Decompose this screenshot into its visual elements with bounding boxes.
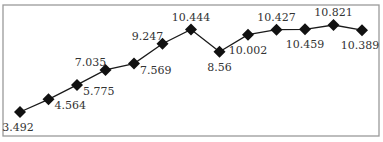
data-label: 7.035: [75, 56, 107, 69]
data-label: 10.821: [314, 6, 353, 19]
data-label: 10.444: [172, 11, 211, 24]
data-point-marker: [71, 79, 83, 91]
data-point-marker: [214, 46, 226, 58]
data-point-marker: [271, 24, 283, 36]
data-label: 3.492: [2, 121, 34, 134]
data-label: 4.564: [55, 99, 87, 112]
data-label: 5.775: [83, 85, 115, 98]
data-label: 10.459: [286, 38, 325, 51]
data-label: 10.002: [229, 44, 268, 57]
data-label: 8.56: [207, 61, 232, 74]
data-point-marker: [14, 106, 26, 118]
data-point-marker: [242, 29, 254, 41]
data-label: 10.427: [257, 11, 296, 24]
data-label: 9.247: [132, 30, 164, 43]
data-point-marker: [43, 93, 55, 105]
data-point-marker: [128, 58, 140, 70]
data-point-marker: [328, 19, 340, 31]
line-chart: 3.4924.5645.7757.0357.5699.24710.4448.56…: [0, 0, 383, 142]
data-point-marker: [185, 23, 197, 35]
data-point-marker: [299, 23, 311, 35]
data-label: 10.389: [341, 39, 380, 52]
data-point-marker: [356, 24, 368, 36]
data-label: 7.569: [140, 64, 172, 77]
